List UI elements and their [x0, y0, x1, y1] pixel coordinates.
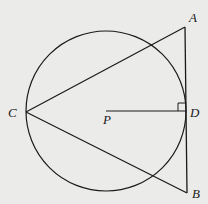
geometry-diagram: A B C D P — [0, 0, 208, 204]
segment-ab — [185, 27, 187, 193]
label-a: A — [188, 10, 197, 25]
label-d: D — [189, 105, 200, 120]
diagram-svg: A B C D P — [0, 0, 208, 204]
label-c: C — [8, 105, 17, 120]
right-angle-marker — [178, 103, 186, 111]
label-p: P — [102, 112, 111, 127]
segment-ca — [26, 27, 185, 112]
label-b: B — [192, 186, 200, 201]
